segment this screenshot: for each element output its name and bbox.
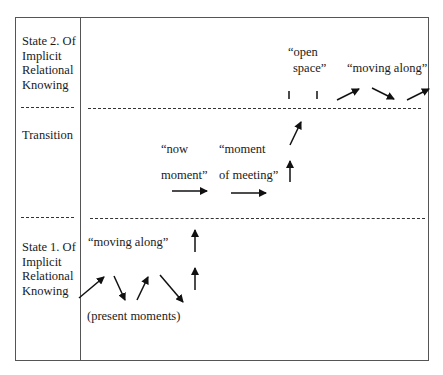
arrows-layer (0, 0, 443, 375)
arrow-up-right-state2-2 (407, 89, 429, 100)
arrow-down-right-state2 (372, 88, 394, 99)
arrow-down-right-1 (114, 276, 125, 300)
arrow-up-right-1 (79, 277, 104, 298)
arrow-up-right-state2-1 (337, 89, 359, 100)
arrow-up-right-transition (290, 122, 301, 145)
arrow-down-right-2 (160, 275, 183, 302)
arrow-up-right-2 (137, 277, 148, 300)
arrow-group (79, 88, 429, 302)
